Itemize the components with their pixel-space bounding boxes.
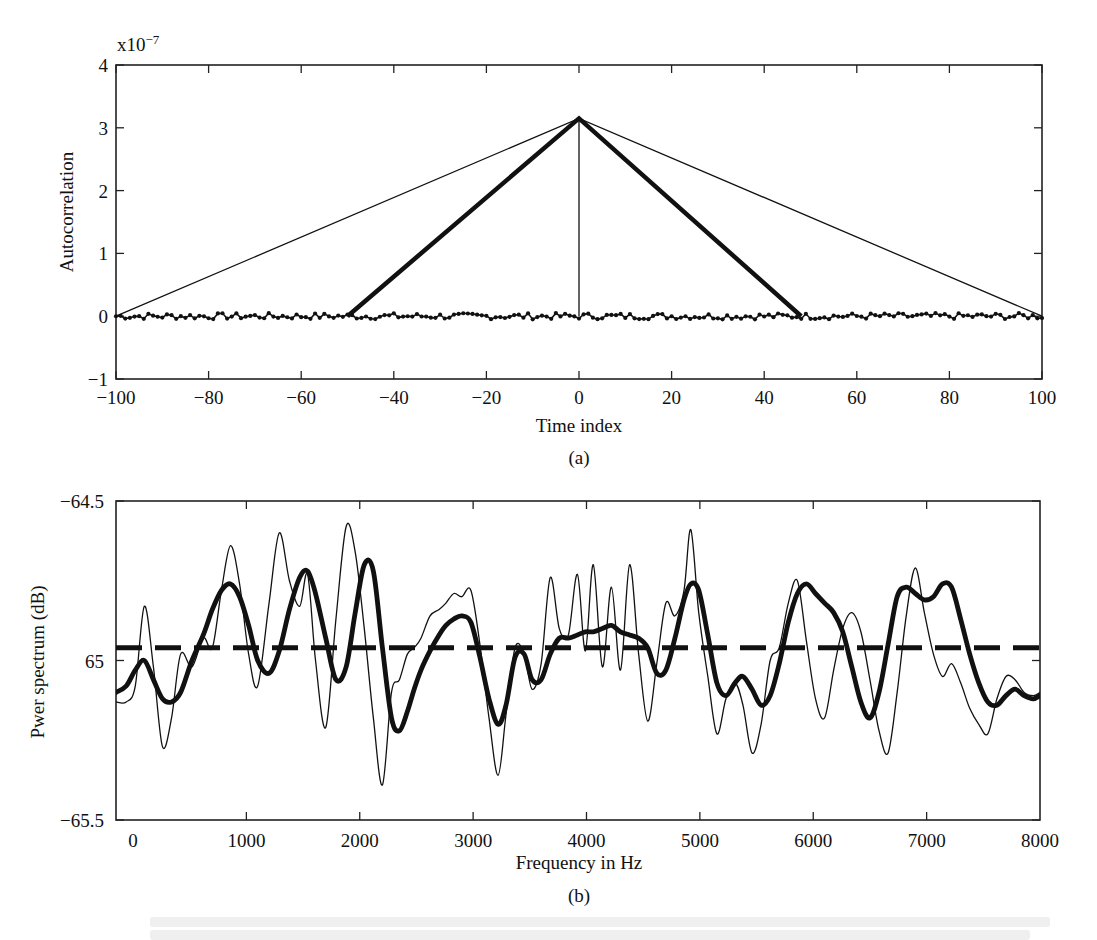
x-tick-label: −100 [96,387,135,408]
panel-b-caption: (b) [568,885,590,907]
x-tick-label: 1000 [227,830,265,851]
x-tick-label: 0 [574,387,584,408]
x-tick-label: 8000 [1021,830,1059,851]
x-tick-label: 7000 [908,830,946,851]
autocorrelation-panel: −100−80−60−40−20020406080100 −101234 x10… [56,32,1056,469]
x-tick-label: −20 [472,387,502,408]
x-tick-label: −40 [379,387,409,408]
y-tick-label: 1 [99,243,109,264]
x-tick-label: 40 [755,387,774,408]
power-spectrum-x-axis-label: Frequency in Hz [516,852,643,873]
x-tick-label: 3000 [454,830,492,851]
y-tick-label: 0 [99,306,109,327]
power-spectrum-x-ticks: 010002000300040005000600070008000 [128,501,1059,851]
autocorrelation-exponent-label: x10−7 [117,32,160,55]
panel-a-caption: (a) [568,447,589,469]
autocorrelation-y-ticks: −101234 [88,55,1042,390]
x-tick-label: 100 [1028,387,1057,408]
y-tick-label: −64.5 [60,491,104,512]
power-spectrum-panel: 010002000300040005000600070008000 −65.56… [27,491,1059,907]
autocorrelation-x-axis-label: Time index [536,415,623,436]
autocorrelation-plot-area [114,118,1044,321]
x-tick-label: 6000 [794,830,832,851]
thick-window-line [348,118,802,316]
x-tick-label: 0 [128,830,138,851]
y-tick-label: 4 [99,55,109,76]
x-tick-label: 60 [847,387,866,408]
x-tick-label: 20 [662,387,681,408]
autocorrelation-x-ticks: −100−80−60−40−20020406080100 [96,65,1056,408]
x-tick-label: 2000 [341,830,379,851]
cropped-text-line [150,917,1050,927]
x-tick-label: −80 [194,387,224,408]
y-tick-label: 2 [99,181,109,202]
x-tick-label: 4000 [568,830,606,851]
power-spectrum-y-axis-label: Pwer spectrum (dB) [27,585,49,738]
power-spectrum-plot-area [116,523,1040,785]
x-tick-label: 80 [940,387,959,408]
autocorrelation-y-axis-label: Autocorrelation [56,151,77,272]
y-tick-label: 65 [85,651,104,672]
y-tick-label: −1 [88,369,108,390]
x-tick-label: −60 [286,387,316,408]
y-tick-label: −65.5 [60,810,104,831]
x-tick-label: 5000 [681,830,719,851]
y-tick-label: 3 [99,118,109,139]
cropped-text-line [150,930,1030,940]
